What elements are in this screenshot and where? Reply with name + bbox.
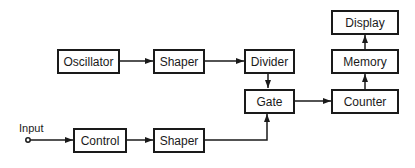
block-shaper-top: Shaper: [153, 49, 205, 74]
block-diagram: Oscillator Shaper Divider Gate Display M…: [0, 0, 415, 168]
block-oscillator: Oscillator: [57, 49, 120, 74]
block-display: Display: [331, 10, 399, 35]
block-control: Control: [73, 128, 127, 153]
block-counter: Counter: [331, 89, 399, 114]
block-shaper-bottom: Shaper: [153, 128, 205, 153]
input-terminal-icon: [26, 138, 30, 142]
input-label: Input: [19, 122, 43, 134]
arrow-shaper-to-gate: [204, 114, 267, 140]
block-memory: Memory: [331, 49, 399, 74]
block-divider: Divider: [244, 49, 295, 74]
block-gate: Gate: [244, 89, 295, 114]
